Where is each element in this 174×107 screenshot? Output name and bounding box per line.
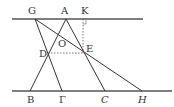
label-d: D <box>39 48 47 59</box>
label-h: H <box>137 94 147 105</box>
label-gamma: Γ <box>59 94 66 105</box>
label-a: Α <box>60 5 69 16</box>
segment-a-b <box>30 19 66 91</box>
label-b: B <box>27 94 34 105</box>
segment-g-h <box>35 19 142 91</box>
label-o: O <box>58 38 66 49</box>
geometry-diagram: G Α K O D E B Γ C H <box>0 0 174 107</box>
label-c: C <box>101 94 109 105</box>
label-e: E <box>86 43 93 54</box>
label-g: G <box>28 5 36 16</box>
segment-a-c <box>66 19 105 91</box>
right-angle-marker <box>83 20 86 24</box>
label-k: K <box>81 5 89 16</box>
